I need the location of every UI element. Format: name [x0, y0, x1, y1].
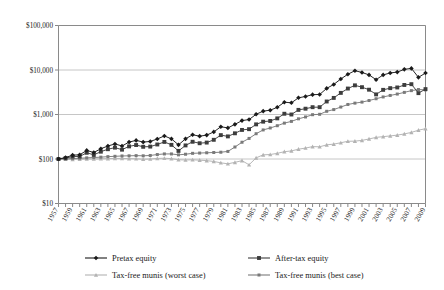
x-tick-label: 1957: [46, 206, 60, 223]
series-marker: [169, 143, 173, 147]
series-marker: [417, 88, 420, 91]
series-marker: [388, 71, 393, 76]
series-marker: [113, 142, 118, 147]
series-marker: [375, 97, 378, 100]
legend-label: Pretax equity: [112, 254, 157, 263]
series-marker: [297, 117, 300, 120]
series-marker: [360, 85, 364, 89]
series-marker: [127, 140, 132, 145]
x-tick-label: 1967: [117, 206, 131, 223]
x-tick-label: 2001: [357, 206, 371, 223]
series-marker: [360, 70, 365, 75]
series-marker: [148, 139, 153, 144]
x-tick-label: 1959: [60, 206, 74, 223]
chart-legend: Pretax equityAfter-tax equityTax-free mu…: [85, 254, 364, 280]
series-marker: [120, 148, 124, 152]
series-marker: [155, 143, 159, 147]
series-marker: [226, 134, 230, 138]
series-marker: [141, 140, 146, 145]
series-marker: [241, 141, 244, 144]
legend-label: Tax-free munis (worst case): [112, 271, 206, 280]
series-marker: [233, 131, 237, 135]
x-tick-label: 1993: [300, 206, 314, 223]
y-tick-label: $10: [42, 200, 53, 208]
series-marker: [135, 154, 138, 157]
series-marker: [141, 145, 145, 149]
series-marker: [113, 146, 117, 150]
series-marker: [162, 134, 167, 139]
series-marker: [177, 153, 180, 156]
series-marker: [339, 106, 342, 109]
series-marker: [332, 96, 336, 100]
series-marker: [388, 86, 392, 90]
legend-item-0[interactable]: Pretax equity: [85, 254, 157, 263]
series-marker: [360, 101, 363, 104]
series-marker: [205, 141, 209, 145]
series-marker: [191, 140, 195, 144]
legend-label: Tax-free munis (best case): [275, 271, 364, 280]
x-tick-label: 1965: [103, 206, 117, 223]
series-marker: [148, 145, 152, 149]
series-marker: [268, 108, 273, 113]
series-marker: [283, 122, 286, 125]
series-marker: [275, 116, 279, 120]
x-tick-label: 1995: [314, 206, 328, 223]
series-marker: [396, 93, 399, 96]
series-marker: [395, 70, 400, 75]
y-axis-tick-labels: $100,000$10,000$1,000$100$10: [26, 22, 53, 208]
series-marker: [212, 138, 216, 142]
series-marker: [325, 100, 329, 104]
series-marker: [204, 133, 209, 138]
x-tick-label: 1975: [173, 206, 187, 223]
series-marker: [389, 94, 392, 97]
series-marker: [303, 94, 308, 99]
series-marker: [142, 154, 145, 157]
series-marker: [289, 113, 293, 117]
series-marker: [198, 152, 201, 155]
series-marker: [198, 141, 202, 145]
series-marker: [233, 146, 236, 149]
series-3: [57, 88, 427, 160]
series-marker: [325, 110, 328, 113]
x-tick-label: 1971: [145, 206, 159, 223]
series-marker: [197, 134, 202, 139]
series-marker: [416, 91, 420, 95]
x-tick-label: 1977: [187, 206, 201, 223]
y-tick-label: $1,000: [33, 111, 53, 119]
series-0: [56, 66, 428, 161]
series-marker: [113, 155, 116, 158]
chart-container: $100,000$10,000$1,000$100$10 19571959196…: [0, 0, 444, 290]
series-marker: [120, 144, 125, 149]
y-tick-label: $100,000: [26, 22, 53, 30]
legend-item-3[interactable]: Tax-free munis (best case): [248, 271, 364, 280]
series-marker: [212, 151, 215, 154]
series-marker: [374, 92, 378, 96]
series-marker: [177, 149, 181, 153]
x-tick-label: 2003: [371, 206, 385, 223]
x-tick-label: 1989: [272, 206, 286, 223]
series-marker: [310, 92, 315, 97]
series-marker: [248, 137, 251, 140]
series-marker: [269, 126, 272, 129]
x-tick-label: 1997: [328, 206, 342, 223]
legend-item-2[interactable]: Tax-free munis (worst case): [85, 271, 206, 280]
series-marker: [332, 108, 335, 111]
x-axis-tick-labels: 1957195919611963196519671969197119731975…: [46, 206, 427, 223]
series-marker: [134, 138, 139, 143]
x-tick-label: 1961: [74, 206, 88, 223]
series-marker: [318, 113, 321, 116]
legend-item-1[interactable]: After-tax equity: [248, 254, 329, 263]
x-tick-label: 2007: [399, 206, 413, 223]
line-chart: $100,000$10,000$1,000$100$10 19571959196…: [0, 0, 444, 290]
y-tick-label: $100: [39, 156, 54, 164]
series-marker: [127, 144, 131, 148]
series-marker: [163, 152, 166, 155]
series-marker: [367, 88, 371, 92]
series-marker: [261, 109, 266, 114]
series-marker: [353, 68, 358, 73]
series-marker: [184, 143, 188, 147]
series-marker: [162, 140, 166, 144]
series-marker: [395, 86, 399, 90]
series-marker: [226, 126, 231, 131]
series-marker: [382, 95, 385, 98]
